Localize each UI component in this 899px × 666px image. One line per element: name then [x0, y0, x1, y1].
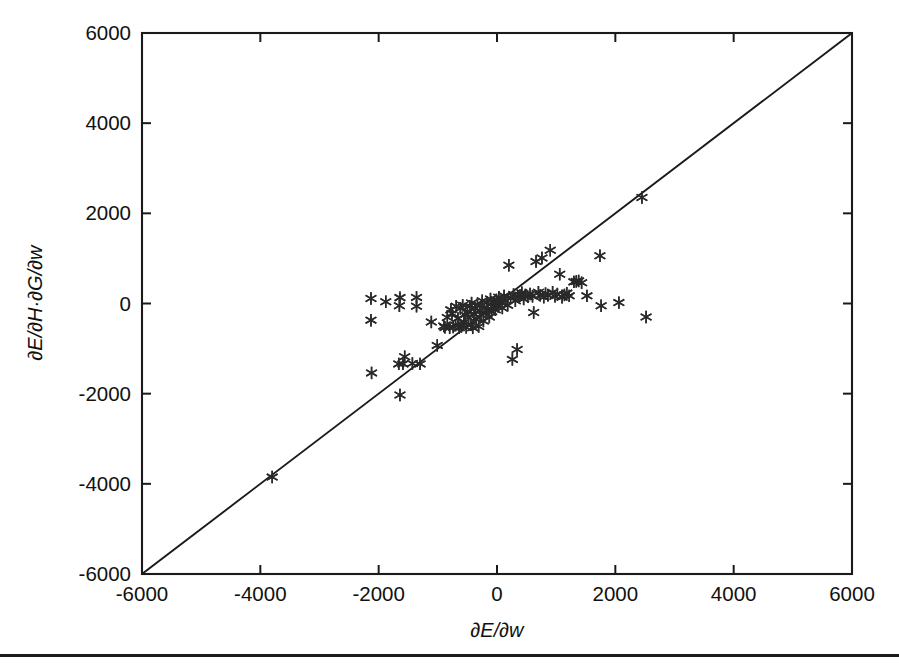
data-point-marker [394, 300, 405, 312]
data-point-marker [503, 259, 514, 271]
data-point-marker [641, 311, 652, 323]
y-tick-label: 6000 [85, 21, 131, 44]
y-tick-label: -4000 [79, 472, 131, 495]
y-tick-label: 2000 [85, 201, 131, 224]
y-axis-tick-labels: -6000-4000-20000200040006000 [79, 21, 131, 585]
data-point-marker [507, 353, 518, 365]
page-bottom-rule [0, 654, 899, 657]
data-point-marker [366, 292, 377, 304]
data-point-marker [596, 300, 607, 312]
x-axis-title: ∂E/∂w [470, 619, 525, 641]
x-axis-tick-labels: -6000-4000-20000200040006000 [116, 582, 875, 605]
data-point-marker [366, 314, 377, 326]
y-tick-label: 0 [120, 292, 131, 315]
data-point-marker [426, 316, 437, 328]
data-point-marker [395, 389, 406, 401]
data-point-marker [366, 367, 377, 379]
x-tick-label: -6000 [116, 582, 168, 605]
data-point-marker [380, 296, 391, 308]
y-tick-label: -2000 [79, 382, 131, 405]
data-point-marker [637, 191, 648, 203]
y-axis-title: ∂E/∂H·∂G/∂w [24, 244, 46, 361]
x-tick-label: 6000 [829, 582, 875, 605]
x-tick-label: 2000 [593, 582, 639, 605]
x-tick-label: -4000 [234, 582, 286, 605]
data-point-marker [582, 290, 593, 302]
x-tick-label: 4000 [711, 582, 757, 605]
data-point-markers [267, 191, 652, 483]
data-point-marker [528, 306, 539, 318]
plot-canvas: -6000-4000-20000200040006000 -6000-4000-… [0, 0, 899, 666]
y-tick-label: -6000 [79, 562, 131, 585]
data-point-marker [512, 343, 523, 355]
scatter-plot-figure: -6000-4000-20000200040006000 -6000-4000-… [0, 0, 899, 666]
y-tick-label: 4000 [85, 111, 131, 134]
data-point-marker [595, 250, 606, 262]
x-tick-label: -2000 [352, 582, 404, 605]
x-tick-label: 0 [491, 582, 502, 605]
data-point-marker [554, 268, 565, 280]
data-point-marker [614, 296, 625, 308]
data-point-marker [411, 300, 422, 312]
